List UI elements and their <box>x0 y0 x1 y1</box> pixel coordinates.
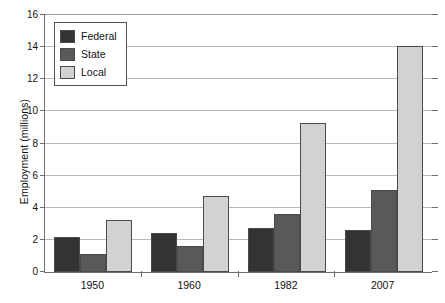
x-axis-tick <box>334 271 335 277</box>
y-axis-tick-right <box>432 207 438 208</box>
x-axis-tick <box>238 271 239 277</box>
y-axis-tick-right <box>432 175 438 176</box>
bar-federal-1950[interactable] <box>54 237 80 272</box>
legend-swatch-federal-icon <box>60 30 75 43</box>
x-axis-tick-label-1960: 1960 <box>177 279 200 291</box>
y-axis-tick <box>40 46 45 47</box>
y-axis-tick <box>40 78 45 79</box>
legend-label: Local <box>81 66 106 78</box>
y-axis-tick-right <box>432 271 438 272</box>
legend-item-local[interactable]: Local <box>60 63 121 81</box>
y-axis-tick-label: 2 <box>32 233 38 244</box>
y-axis-tick-right <box>432 110 438 111</box>
x-axis-tick-label-2007: 2007 <box>371 279 394 291</box>
bar-federal-2007[interactable] <box>345 230 371 272</box>
y-axis-tick-right <box>432 239 438 240</box>
y-axis-tick-label: 8 <box>32 137 38 148</box>
bar-group <box>151 15 229 272</box>
y-axis-tick <box>40 207 45 208</box>
y-axis-tick-right <box>432 46 438 47</box>
legend-label: Federal <box>81 30 117 42</box>
y-axis-tick <box>40 14 45 15</box>
y-axis-tick-label: 10 <box>27 105 38 116</box>
y-axis-tick-label: 6 <box>32 169 38 180</box>
y-axis-tick-right <box>432 78 438 79</box>
y-axis-tick-labels: 0246810121416 <box>18 0 38 303</box>
bar-state-1982[interactable] <box>274 214 300 272</box>
y-axis-tick <box>40 110 45 111</box>
x-axis-tick-label-1982: 1982 <box>274 279 297 291</box>
bar-state-2007[interactable] <box>371 190 397 272</box>
bar-group <box>345 15 423 272</box>
x-axis-tick-labels: 1950196019822007 <box>44 279 431 295</box>
legend-item-state[interactable]: State <box>60 45 121 63</box>
bar-local-2007[interactable] <box>397 46 423 272</box>
bar-group <box>248 15 326 272</box>
y-axis-tick <box>40 143 45 144</box>
bar-federal-1960[interactable] <box>151 233 177 272</box>
x-axis-ticks <box>44 271 431 277</box>
legend-swatch-state-icon <box>60 48 75 61</box>
bar-local-1950[interactable] <box>106 220 132 272</box>
y-axis-tick <box>40 239 45 240</box>
x-axis-tick <box>141 271 142 277</box>
y-axis-tick-label: 14 <box>27 41 38 52</box>
y-axis-tick-label: 4 <box>32 201 38 212</box>
bar-local-1960[interactable] <box>203 196 229 272</box>
y-axis-tick <box>40 175 45 176</box>
y-axis-tick-label: 0 <box>32 266 38 277</box>
y-axis-tick-right <box>432 14 438 15</box>
bar-chart: Employment (millions) 0246810121416 1950… <box>0 0 445 303</box>
y-axis-tick-label: 12 <box>27 73 38 84</box>
x-axis-tick-label-1950: 1950 <box>81 279 104 291</box>
bar-state-1950[interactable] <box>80 254 106 272</box>
bar-state-1960[interactable] <box>177 246 203 273</box>
legend-label: State <box>81 48 106 60</box>
bar-federal-1982[interactable] <box>248 228 274 272</box>
legend-item-federal[interactable]: Federal <box>60 27 121 45</box>
y-axis-tick-right <box>432 143 438 144</box>
y-axis-tick-label: 16 <box>27 9 38 20</box>
legend: FederalStateLocal <box>54 22 127 86</box>
bar-local-1982[interactable] <box>300 123 326 272</box>
legend-swatch-local-icon <box>60 66 75 79</box>
